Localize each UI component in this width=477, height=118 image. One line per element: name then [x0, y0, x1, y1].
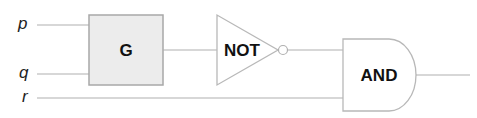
logic-circuit-diagram: p q r G NOT AND: [0, 0, 477, 118]
gate-not-label: NOT: [220, 42, 264, 59]
input-label-r: r: [22, 88, 28, 105]
gate-g-label: G: [89, 42, 163, 59]
input-label-p: p: [18, 15, 27, 32]
not-bubble-icon: [279, 46, 288, 55]
input-label-q: q: [19, 64, 28, 81]
gate-and-label: AND: [352, 67, 406, 84]
